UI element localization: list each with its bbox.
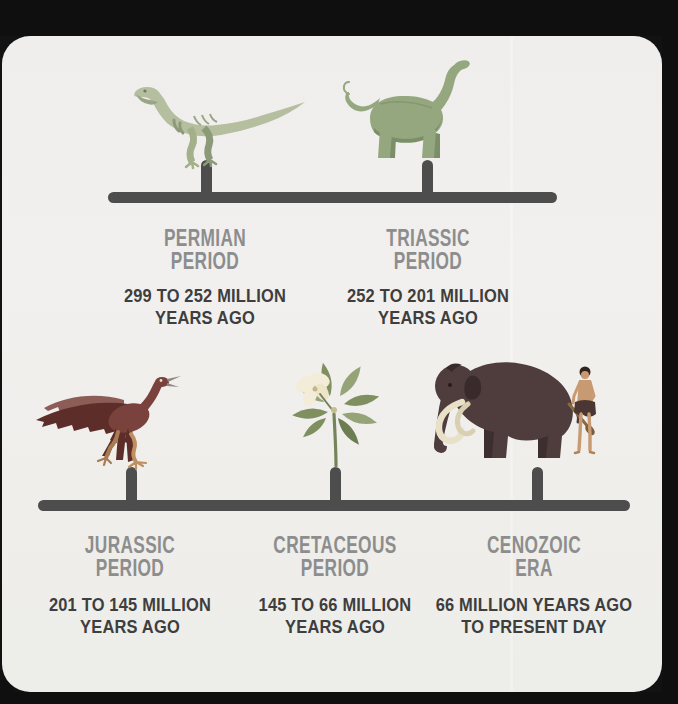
period-name-cenozoic: CENOZOIC ERA [455,533,613,579]
theropod-eye [143,89,146,92]
period-range-triassic: 252 TO 201 MILLION YEARS AGO [325,286,532,329]
caption-cretaceous: CRETACEOUS PERIOD [225,533,445,579]
period-name-permian: PERMIAN PERIOD [126,226,284,272]
magnolia-stem [334,414,336,466]
theropod-near-leg [190,128,194,162]
archaeopteryx-illustration [32,374,182,472]
timeline-tick-cretaceous [330,467,341,505]
mammoth-and-human-illustration [422,356,606,468]
sauropod-dinosaur-illustration [340,56,480,162]
human-face [581,371,589,379]
archaeopteryx-near-foot [129,462,146,469]
timeline-tick-triassic [422,160,433,198]
period-range-cenozoic: 66 MILLION YEARS AGO TO PRESENT DAY [431,595,638,638]
theropod-near-foot [186,162,198,168]
caption-triassic: TRIASSIC PERIOD [318,226,538,272]
archaeopteryx-head [155,377,169,387]
archaeopteryx-eye [160,379,163,382]
timeline-tick-cenozoic [532,467,543,505]
theropod-far-leg [204,128,210,160]
human-legs [579,414,590,450]
theropod-far-foot [204,160,216,166]
timeline-card: PERMIAN PERIOD 299 TO 252 MILLION YEARS … [2,36,662,692]
period-name-triassic: TRIASSIC PERIOD [349,226,507,272]
period-range-jurassic: 201 TO 145 MILLION YEARS AGO [27,595,234,638]
timeline-tick-jurassic [126,467,137,505]
frame-top [0,0,678,36]
archaeopteryx-far-leg [106,432,118,458]
period-name-cretaceous: CRETACEOUS PERIOD [256,533,414,579]
frame-right [662,0,678,704]
sauropod-tail-tip [344,82,349,94]
coelophysis-dinosaur-illustration [128,78,308,170]
period-range-permian: 299 TO 252 MILLION YEARS AGO [102,286,309,329]
human-feet [575,452,594,453]
theropod-body [134,87,305,136]
sauropod-neck [424,63,468,120]
theropod-rib-stripes [194,114,217,125]
magnolia-plant-illustration [276,362,392,470]
period-name-jurassic: JURASSIC PERIOD [51,533,209,579]
caption-cenozoic: CENOZOIC ERA [424,533,644,579]
timeline-bar-top-row [108,192,557,203]
archaeopteryx-far-foot [98,458,111,465]
archaeopteryx-beak [167,376,181,387]
mammoth-figure [434,362,579,458]
caption-permian: PERMIAN PERIOD [95,226,315,272]
period-range-cretaceous: 145 TO 66 MILLION YEARS AGO [232,595,439,638]
frame-bottom [0,692,678,704]
early-human-figure [569,367,597,454]
caption-jurassic: JURASSIC PERIOD [20,533,240,579]
magnolia-bud [331,407,337,413]
